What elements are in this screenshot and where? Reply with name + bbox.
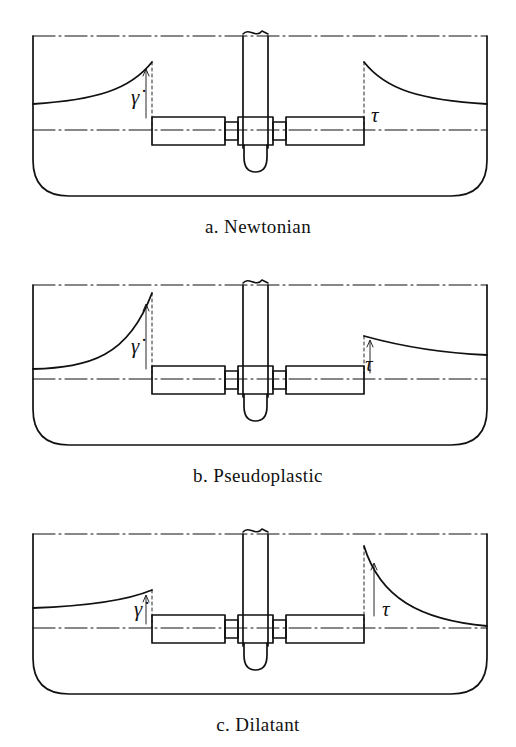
shaft-break-symbol — [243, 31, 268, 34]
caption-panel-a: a. Newtonian — [0, 216, 516, 238]
shaft-break-symbol — [243, 280, 268, 283]
left-neck — [225, 620, 238, 638]
panel-a-newtonian: γ̇ τ a. Newtonian — [0, 0, 516, 249]
left-blade — [152, 117, 225, 145]
right-shear-stress-curve — [364, 62, 487, 104]
left-blade — [152, 615, 225, 643]
right-shear-stress-curve — [364, 336, 487, 355]
impeller-nose — [244, 394, 267, 421]
left-symbol-gamma-dot: γ̇ — [131, 85, 145, 109]
impeller-nose — [244, 145, 267, 172]
panel-b-pseudoplastic: γ̇ τ b. Pseudoplastic — [0, 249, 516, 498]
right-blade — [286, 615, 364, 643]
left-blade — [152, 366, 225, 394]
impeller-nose — [244, 643, 267, 670]
right-blade — [286, 366, 364, 394]
left-symbol-gamma-dot: γ̇ — [131, 334, 145, 358]
left-neck — [225, 122, 238, 140]
right-symbol-tau: τ — [371, 103, 380, 127]
panel-b-diagram: γ̇ τ — [0, 249, 516, 464]
caption-panel-c: c. Dilatant — [0, 714, 516, 736]
left-neck — [225, 371, 238, 389]
right-symbol-tau: τ — [365, 352, 374, 376]
right-neck — [273, 371, 286, 389]
shaft-break-symbol — [243, 529, 268, 532]
right-neck — [273, 122, 286, 140]
right-symbol-tau: τ — [382, 597, 391, 621]
panel-a-diagram: γ̇ τ — [0, 0, 516, 215]
right-neck — [273, 620, 286, 638]
figure-fluid-shear-profiles: γ̇ τ a. Newtonian — [0, 0, 516, 747]
caption-panel-b: b. Pseudoplastic — [0, 465, 516, 487]
right-blade — [286, 117, 364, 145]
panel-c-dilatant: γ̇ τ c. Dilatant — [0, 498, 516, 747]
panel-c-diagram: γ̇ τ — [0, 498, 516, 713]
